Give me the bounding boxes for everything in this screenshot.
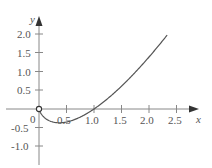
- x-tick-label: 1.0: [85, 114, 99, 126]
- y-axis-label: y: [29, 13, 35, 25]
- y-tick-label: 1.5: [17, 47, 31, 59]
- origin-label: 0: [30, 113, 36, 125]
- y-axis-arrow-icon: [36, 16, 43, 26]
- y-tick-label: 1.0: [17, 66, 31, 78]
- y-tick-label: -1.0: [11, 140, 29, 152]
- plot: 0.5 1.0 1.5 2.0 2.5 x 2.0 1.5 1.0 0.5 -0…: [0, 0, 212, 168]
- x-tick-label: 2.5: [168, 114, 182, 126]
- x-axis-arrow-icon: [189, 106, 199, 113]
- open-point-origin: [36, 106, 41, 111]
- y-tick-label: 2.0: [17, 28, 31, 40]
- x-tick-label: 1.5: [113, 114, 127, 126]
- x-axis-label: x: [195, 113, 201, 125]
- y-tick-label: 0.5: [17, 84, 31, 96]
- x-tick-label: 0.5: [57, 114, 71, 126]
- y-tick-label: -0.5: [11, 122, 29, 134]
- curve-x-ln-x: [39, 35, 167, 123]
- x-tick-label: 2.0: [140, 114, 154, 126]
